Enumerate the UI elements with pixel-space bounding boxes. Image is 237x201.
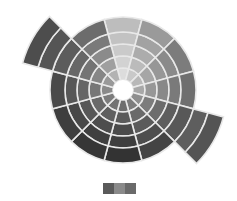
- chart-legend: [0, 0, 237, 201]
- legend-swatch: [114, 183, 125, 194]
- legend-swatch: [125, 183, 136, 194]
- legend-swatch: [103, 183, 114, 194]
- chart-canvas: [0, 0, 237, 201]
